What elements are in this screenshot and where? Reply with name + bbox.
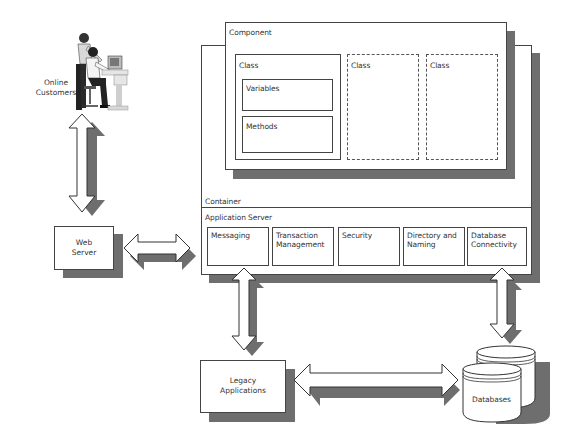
class-label-2: Class: [351, 61, 370, 70]
service-label: Database Connectivity: [471, 231, 527, 249]
legacy-applications-box: Legacy Applications: [200, 360, 286, 413]
methods-label: Methods: [246, 122, 277, 131]
variables-label: Variables: [246, 84, 279, 93]
people-at-computer-icon: [62, 30, 132, 115]
service-directory-naming: Directory and Naming: [403, 227, 465, 266]
customers-webserver-arrow: [60, 112, 110, 224]
methods-box: Methods: [242, 116, 333, 153]
application-server-label: Application Server: [205, 213, 272, 222]
web-server-label: Web Server: [55, 238, 113, 258]
legacy-applications-label: Legacy Applications: [201, 376, 285, 396]
service-transaction-management: Transaction Management: [272, 227, 334, 266]
service-security: Security: [338, 227, 400, 266]
service-label: Directory and Naming: [407, 231, 465, 249]
component-box: Component Class Variables Methods Class …: [225, 22, 507, 170]
class-box-1: Class Variables Methods: [235, 54, 341, 160]
class-label-1: Class: [239, 61, 258, 70]
component-label: Component: [229, 28, 272, 37]
service-label: Security: [342, 231, 372, 240]
container-divider: [201, 207, 532, 208]
appserver-legacy-arrow: [218, 266, 268, 361]
service-label: Transaction Management: [276, 231, 334, 249]
variables-box: Variables: [242, 79, 333, 111]
webserver-appserver-arrow: [120, 228, 200, 278]
class-box-2: Class: [347, 54, 419, 160]
web-server-box: Web Server: [54, 226, 114, 270]
service-messaging: Messaging: [207, 227, 269, 266]
service-database-connectivity: Database Connectivity: [467, 227, 527, 266]
databases-label: Databases: [472, 395, 511, 404]
class-box-3: Class: [426, 54, 498, 160]
legacy-databases-arrow: [290, 360, 470, 410]
class-label-3: Class: [430, 61, 449, 70]
appserver-databases-arrow: [480, 266, 530, 346]
database-cylinders-icon: [458, 340, 558, 430]
service-label: Messaging: [211, 231, 250, 240]
container-label: Container: [205, 197, 241, 206]
